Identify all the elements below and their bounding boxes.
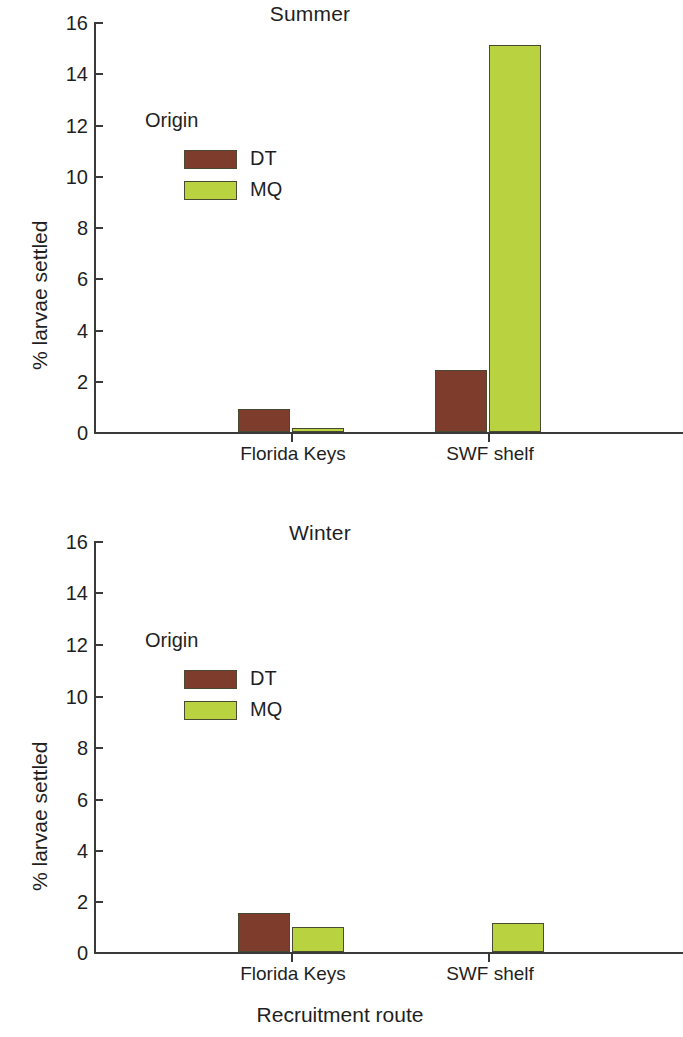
summer-ytick-mark-10 (96, 176, 103, 178)
summer-ytick-mark-8 (96, 227, 103, 229)
summer-ytick-label-0: 0 (30, 422, 88, 445)
winter-xtick-mark-swf-shelf (488, 953, 490, 962)
winter-legend-label-mq: MQ (250, 698, 282, 721)
summer-ytick-mark-4 (96, 330, 103, 332)
summer-plot-title: Summer (225, 2, 395, 26)
winter-ytick-label-4: 4 (30, 840, 88, 863)
winter-legend-swatch-dt (184, 670, 237, 689)
winter-ytick-mark-2 (96, 901, 103, 903)
summer-bar-dt-florida-keys (238, 409, 290, 432)
summer-ytick-label-16: 16 (30, 12, 88, 35)
winter-y-axis-label: % larvae settled (28, 742, 52, 891)
summer-legend-label-dt: DT (250, 147, 277, 170)
summer-y-axis-label: % larvae settled (28, 221, 52, 370)
winter-ytick-label-8: 8 (30, 737, 88, 760)
summer-legend-title: Origin (145, 109, 198, 132)
winter-ytick-mark-8 (96, 747, 103, 749)
winter-legend-swatch-mq (184, 701, 237, 720)
summer-chart-panel: Summer % larvae settled 16 14 12 10 8 6 … (0, 0, 683, 500)
summer-bar-mq-swf-shelf (489, 45, 541, 432)
winter-legend-label-dt: DT (250, 667, 277, 690)
summer-ytick-label-8: 8 (30, 217, 88, 240)
summer-legend-label-mq: MQ (250, 178, 282, 201)
summer-ytick-mark-0 (96, 432, 103, 434)
summer-x-axis-line (94, 432, 683, 434)
summer-ytick-label-2: 2 (30, 371, 88, 394)
winter-ytick-mark-6 (96, 799, 103, 801)
summer-xtick-mark-florida-keys (291, 433, 293, 442)
summer-ytick-mark-14 (96, 73, 103, 75)
winter-ytick-mark-0 (96, 952, 103, 954)
summer-ytick-label-12: 12 (30, 115, 88, 138)
summer-bar-dt-swf-shelf (435, 370, 487, 432)
summer-ytick-mark-6 (96, 278, 103, 280)
winter-ytick-label-12: 12 (30, 634, 88, 657)
winter-ytick-mark-14 (96, 592, 103, 594)
winter-chart-panel: Winter % larvae settled 16 14 12 10 8 6 … (0, 519, 683, 1037)
winter-xtick-label-florida-keys: Florida Keys (208, 963, 378, 985)
winter-ytick-mark-16 (96, 541, 103, 543)
winter-ytick-label-14: 14 (30, 582, 88, 605)
winter-ytick-label-16: 16 (30, 531, 88, 554)
summer-ytick-mark-2 (96, 381, 103, 383)
winter-bar-mq-swf-shelf (492, 923, 544, 952)
winter-ytick-mark-10 (96, 696, 103, 698)
winter-bar-mq-florida-keys (292, 927, 344, 952)
summer-ytick-mark-16 (96, 22, 103, 24)
winter-x-axis-line (94, 952, 683, 954)
summer-legend-swatch-dt (184, 150, 237, 169)
summer-ytick-mark-12 (96, 125, 103, 127)
summer-bar-mq-florida-keys (292, 428, 344, 432)
winter-bar-dt-florida-keys (238, 913, 290, 952)
summer-xtick-label-florida-keys: Florida Keys (208, 443, 378, 465)
winter-ytick-label-10: 10 (30, 686, 88, 709)
summer-ytick-label-10: 10 (30, 166, 88, 189)
summer-legend-swatch-mq (184, 181, 237, 200)
winter-plot-title: Winter (235, 521, 405, 545)
winter-ytick-label-6: 6 (30, 789, 88, 812)
winter-legend-title: Origin (145, 629, 198, 652)
winter-xtick-label-swf-shelf: SWF shelf (405, 963, 575, 985)
x-axis-label: Recruitment route (195, 1003, 485, 1027)
winter-ytick-mark-4 (96, 850, 103, 852)
winter-ytick-label-2: 2 (30, 891, 88, 914)
summer-ytick-label-6: 6 (30, 268, 88, 291)
summer-ytick-label-14: 14 (30, 63, 88, 86)
winter-ytick-mark-12 (96, 644, 103, 646)
winter-xtick-mark-florida-keys (291, 953, 293, 962)
summer-xtick-label-swf-shelf: SWF shelf (405, 443, 575, 465)
summer-xtick-mark-swf-shelf (488, 433, 490, 442)
winter-ytick-label-0: 0 (30, 942, 88, 965)
summer-ytick-label-4: 4 (30, 320, 88, 343)
